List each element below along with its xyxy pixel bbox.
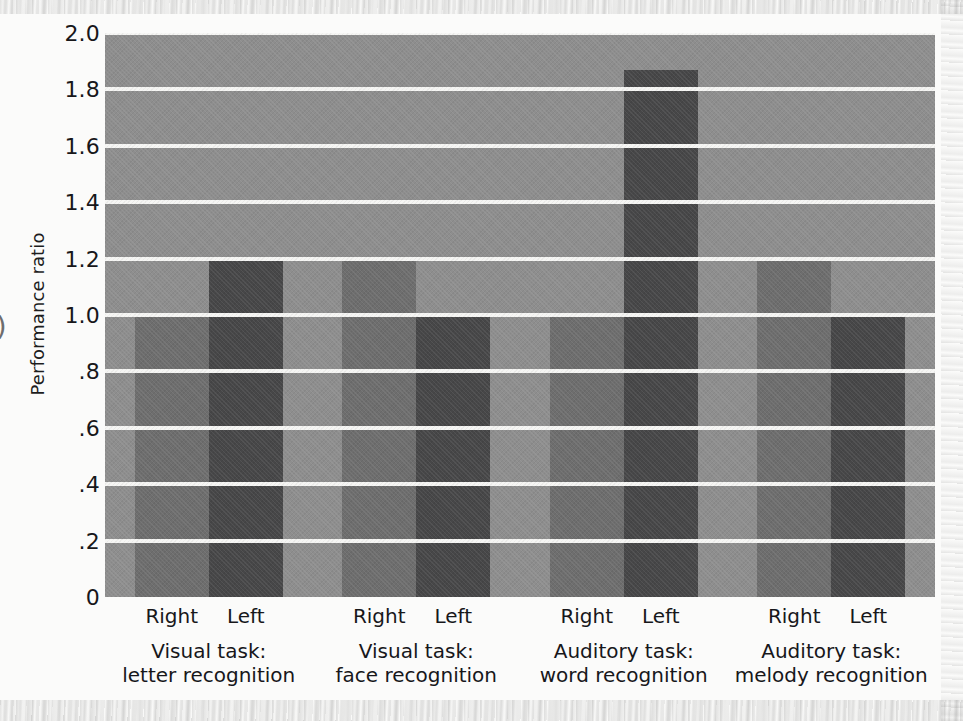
y-tick-label: 1.6 <box>44 133 100 158</box>
group-label-line2: face recognition <box>313 663 521 687</box>
scanned-page: ) Performance ratio 2.01.81.61.41.21.0.8… <box>0 0 963 721</box>
x-tick-label-hand: Right <box>135 604 209 628</box>
x-tick-label-hand: Left <box>416 604 490 628</box>
group-label-line1: Auditory task: <box>520 639 728 663</box>
x-axis-group-label: Visual task:letter recognition <box>105 639 313 688</box>
bar <box>135 315 209 597</box>
scan-texture-top <box>0 0 963 14</box>
x-axis-labels: RightLeftVisual task:letter recognitionR… <box>105 597 935 717</box>
x-tick-label-hand: Right <box>342 604 416 628</box>
y-tick-label: 2.0 <box>44 21 100 46</box>
plot-area <box>105 33 935 597</box>
y-tick-label: 1.8 <box>44 77 100 102</box>
bar <box>342 259 416 597</box>
group-label-line2: melody recognition <box>728 663 936 687</box>
bar-series-container <box>105 33 935 597</box>
x-tick-label-hand: Right <box>757 604 831 628</box>
y-tick-label: .2 <box>44 528 100 553</box>
x-axis-group-label: Auditory task:word recognition <box>520 639 728 688</box>
bar <box>757 259 831 597</box>
y-tick-label: .4 <box>44 472 100 497</box>
y-tick-label: 1.2 <box>44 246 100 271</box>
bar <box>831 315 905 597</box>
bar <box>209 259 283 597</box>
x-tick-label-hand: Right <box>550 604 624 628</box>
x-axis-group-label: Visual task:face recognition <box>313 639 521 688</box>
group-label-line1: Auditory task: <box>728 639 936 663</box>
x-tick-label-hand: Left <box>831 604 905 628</box>
x-tick-label-hand: Left <box>209 604 283 628</box>
x-tick-label-hand: Left <box>624 604 698 628</box>
y-tick-label: 0 <box>44 585 100 610</box>
group-label-line1: Visual task: <box>105 639 313 663</box>
y-tick-label: 1.0 <box>44 303 100 328</box>
x-axis-group-label: Auditory task:melody recognition <box>728 639 936 688</box>
scan-texture-right <box>941 0 963 721</box>
y-axis-tick-labels: 2.01.81.61.41.21.0.8.6.4.20 <box>44 0 100 721</box>
y-tick-label: .8 <box>44 359 100 384</box>
y-tick-label: 1.4 <box>44 190 100 215</box>
bar <box>624 70 698 597</box>
group-label-line1: Visual task: <box>313 639 521 663</box>
group-label-line2: word recognition <box>520 663 728 687</box>
y-tick-label: .6 <box>44 415 100 440</box>
bar <box>416 315 490 597</box>
bar <box>550 315 624 597</box>
page-edge-glyph: ) <box>0 312 7 339</box>
group-label-line2: letter recognition <box>105 663 313 687</box>
